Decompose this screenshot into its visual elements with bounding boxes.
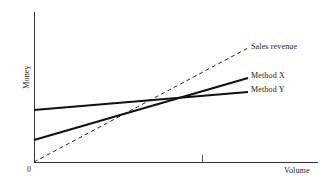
cost-volume-chart: Money Volume 0 Sales revenue Method X Me… <box>0 0 324 184</box>
origin-tick-label: 0 <box>27 165 31 174</box>
series-line-method-y <box>34 92 248 110</box>
series-label-method-y: Method Y <box>251 85 285 94</box>
series-line-method-x <box>34 78 248 140</box>
series-label-sales-revenue: Sales revenue <box>251 42 297 51</box>
series-label-method-x: Method X <box>251 71 285 80</box>
series-line-sales-revenue <box>34 48 248 162</box>
x-axis-title: Volume <box>284 166 310 175</box>
y-axis-title: Money <box>22 57 31 97</box>
